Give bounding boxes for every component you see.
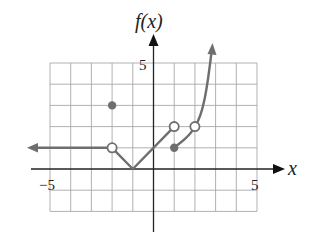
x-tick-5: 5 — [251, 177, 259, 193]
open-point — [170, 122, 179, 131]
axes — [31, 34, 285, 232]
x-tick-neg5: −5 — [39, 177, 55, 193]
function-curve — [27, 43, 217, 169]
closed-point — [170, 144, 178, 152]
open-point — [190, 122, 199, 131]
closed-point — [108, 101, 116, 109]
open-point — [108, 143, 117, 152]
function-graph: f(x) x 5 −5 5 — [0, 0, 316, 241]
x-axis-arrow-icon — [273, 164, 285, 174]
left-ray-arrow-icon — [27, 143, 38, 153]
tail-arrow-icon — [208, 43, 217, 55]
y-axis-arrow-icon — [149, 34, 159, 46]
x-axis-label: x — [287, 157, 297, 179]
y-tick-5: 5 — [139, 57, 147, 73]
y-axis-label: f(x) — [135, 10, 163, 33]
